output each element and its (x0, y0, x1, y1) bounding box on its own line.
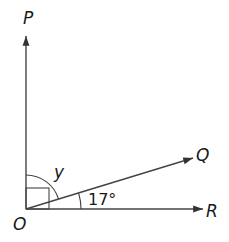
angle-arc-17 (79, 193, 81, 209)
label-o: O (13, 214, 26, 234)
label-r: R (206, 201, 218, 221)
label-angle-17: 17° (88, 190, 116, 209)
angle-diagram: P Q R O y 17° (0, 0, 229, 242)
label-p: P (23, 8, 34, 28)
label-q: Q (196, 145, 209, 165)
label-angle-y: y (53, 162, 65, 182)
